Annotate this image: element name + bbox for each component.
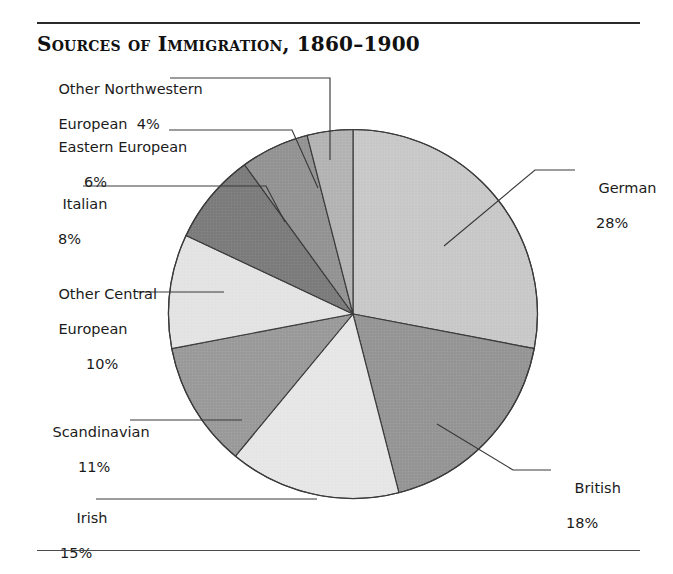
slice-label-line1: Other Northwestern: [58, 81, 202, 97]
slice-label-percent: 8%: [44, 231, 128, 249]
slice-label-line2: European: [58, 321, 127, 337]
slice-label-name: Eastern European: [58, 139, 187, 155]
slice-label-irish: Irish 15%: [58, 492, 118, 574]
pie-slices: [169, 130, 538, 499]
slice-label-other-central-european: Other Central European 10%: [40, 268, 172, 408]
slice-label-percent: 18%: [556, 515, 632, 533]
slice-label-percent: 28%: [580, 215, 660, 233]
slice-label-name: German: [598, 180, 656, 196]
slice-label-percent: 11%: [34, 459, 176, 477]
figure-container: Sources of Immigration, 1860–1900: [0, 0, 673, 574]
slice-label-line1: Other Central: [58, 286, 157, 302]
slice-label-percent: 10%: [40, 356, 172, 374]
slice-label-name: Italian: [62, 196, 107, 212]
slice-label-percent: 15%: [58, 545, 118, 563]
bottom-rule: [37, 550, 640, 551]
slice-label-german: German 28%: [580, 162, 660, 267]
slice-label-british: British 18%: [556, 462, 632, 567]
slice-label-name: British: [574, 480, 620, 496]
slice-label-name: Irish: [76, 510, 107, 526]
slice-label-name: Scandinavian: [52, 424, 149, 440]
pie-slice-german: [353, 130, 537, 349]
